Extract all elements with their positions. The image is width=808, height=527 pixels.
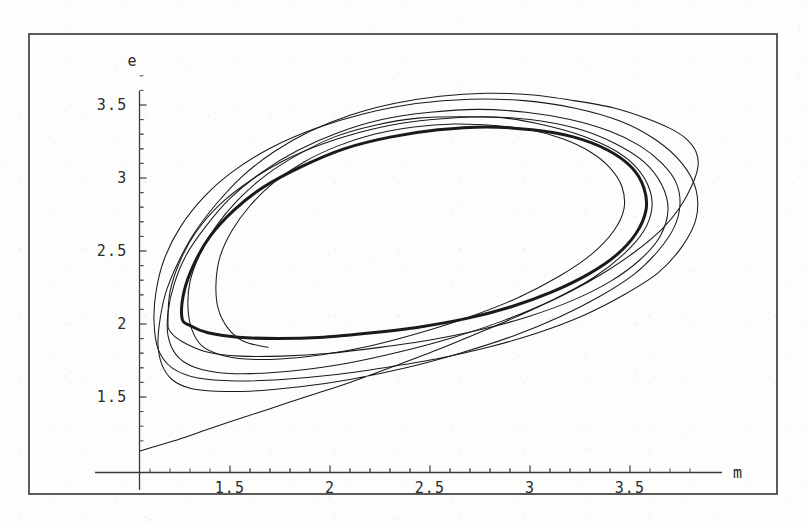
x-tick-label: 3.5: [615, 479, 646, 497]
curve-transient-approach: [140, 93, 698, 451]
x-tick-label: 2.5: [415, 479, 446, 497]
x-tick-label: 3: [525, 479, 535, 497]
trajectory-curves: [140, 93, 698, 451]
y-axis-tick-labels: 1.522.533.5: [97, 96, 128, 406]
x-tick-label: 1.5: [215, 479, 246, 497]
x-tick-label: 2: [325, 479, 335, 497]
figure-page: 1.522.533.5 1.522.533.5 e m: [0, 0, 808, 527]
y-tick-label: 2: [117, 315, 127, 333]
y-tick-label: 3: [117, 169, 127, 187]
y-axis-label: e: [127, 52, 136, 70]
y-tick-label: 1.5: [97, 388, 128, 406]
curve-middle-loop: [168, 117, 668, 357]
y-tick-label: 2.5: [97, 242, 128, 260]
phase-portrait-plot: 1.522.533.5 1.522.533.5 e m: [0, 0, 808, 527]
y-tick-label: 3.5: [97, 96, 128, 114]
x-axis-label: m: [733, 464, 742, 482]
x-axis-ticks: [150, 466, 690, 473]
curve-outer-loop: [154, 99, 698, 381]
y-axis-ticks: [140, 76, 147, 441]
plot-frame: [29, 34, 777, 494]
